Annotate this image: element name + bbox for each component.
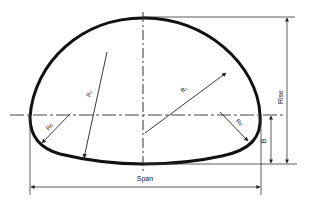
diagram-svg: Span B Rise R₁ R₂ Rc Rc	[0, 0, 313, 208]
top-radius-line	[145, 73, 226, 133]
b-label: B	[260, 138, 267, 143]
corner-radius-left-label: Rc	[45, 122, 54, 131]
span-label: Span	[137, 175, 153, 183]
rise-label: Rise	[277, 90, 284, 104]
corner-radius-right-line	[220, 112, 248, 141]
arch-outline	[30, 18, 260, 164]
side-radius-line	[84, 52, 107, 158]
corner-radius-right-label: Rc	[235, 118, 244, 127]
side-radius-label: R₂	[85, 89, 92, 97]
pipe-arch-diagram: Span B Rise R₁ R₂ Rc Rc	[0, 0, 313, 208]
top-radius-label: R₁	[179, 85, 188, 94]
